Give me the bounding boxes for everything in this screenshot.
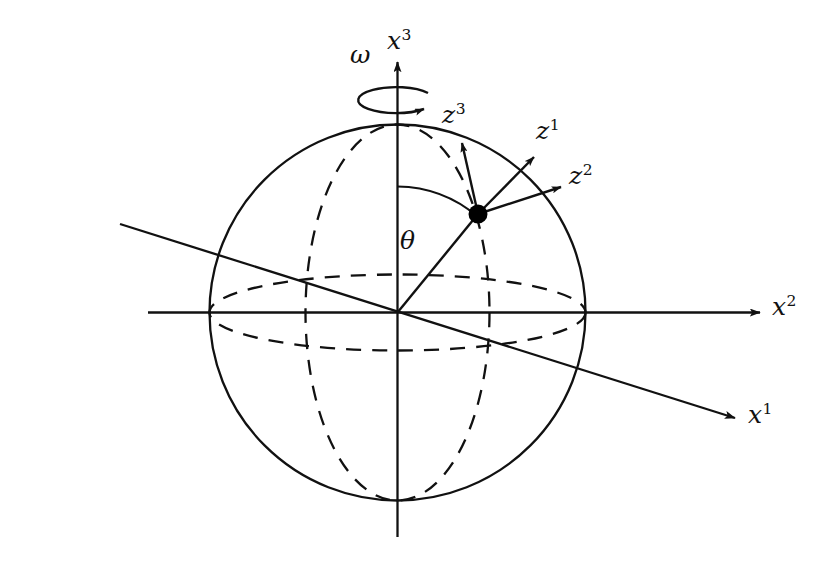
label-x2-base: x xyxy=(772,292,786,321)
diagram-svg xyxy=(0,0,816,571)
label-z2: z2 xyxy=(569,163,593,188)
label-x3-base: x xyxy=(387,26,401,55)
label-x2: x2 xyxy=(772,294,796,319)
label-z3-sup: 3 xyxy=(456,100,466,118)
rotation-arrow xyxy=(358,87,428,113)
label-z2-sup: 2 xyxy=(583,161,593,179)
label-z2-base: z xyxy=(569,161,582,190)
label-x3-sup: 3 xyxy=(402,26,412,44)
label-z3-base: z xyxy=(442,100,455,129)
label-theta: θ xyxy=(400,228,415,253)
label-z1-sup: 1 xyxy=(550,116,560,134)
theta-arc xyxy=(398,187,478,217)
label-x2-sup: 2 xyxy=(787,292,797,310)
label-z1-base: z xyxy=(536,116,549,145)
label-x1-base: x xyxy=(748,400,762,429)
label-omega: ω xyxy=(350,42,370,67)
axis-x1 xyxy=(120,224,735,418)
label-z3: z3 xyxy=(442,102,466,127)
figure-canvas: ω x3 x2 x1 z3 z1 z2 θ xyxy=(0,0,816,571)
triad-arrow-z3 xyxy=(462,143,478,214)
label-z1: z1 xyxy=(536,118,560,143)
label-x1: x1 xyxy=(748,402,772,427)
label-x1-sup: 1 xyxy=(763,400,773,418)
label-x3: x3 xyxy=(387,28,411,53)
particle-dot xyxy=(469,205,488,224)
